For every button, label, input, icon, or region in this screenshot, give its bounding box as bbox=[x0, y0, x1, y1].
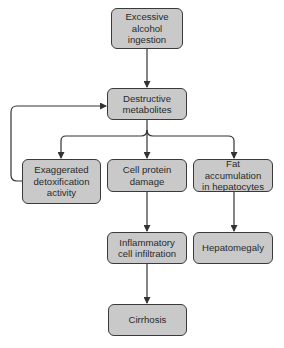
edge-metabolites-fat bbox=[147, 130, 234, 158]
node-label: Fat accumulation in hepatocytes bbox=[197, 158, 269, 193]
node-hepatomegaly: Hepatomegaly bbox=[193, 232, 273, 264]
node-cirrhosis: Cirrhosis bbox=[108, 304, 187, 336]
node-destructive-metabolites: Destructive metabolites bbox=[107, 88, 187, 120]
node-label: Cell protein damage bbox=[123, 164, 172, 187]
edge-metabolites-detox bbox=[61, 130, 147, 158]
node-excessive-alcohol-ingestion: Excessive alcohol ingestion bbox=[111, 8, 183, 49]
node-label: Destructive metabolites bbox=[122, 93, 171, 116]
node-exaggerated-detoxification-activity: Exaggerated detoxification activity bbox=[22, 159, 101, 204]
node-cell-protein-damage: Cell protein damage bbox=[107, 159, 187, 192]
node-label: Cirrhosis bbox=[129, 314, 167, 326]
node-label: Exaggerated detoxification activity bbox=[34, 164, 90, 199]
node-label: Excessive alcohol ingestion bbox=[125, 11, 168, 46]
node-fat-accumulation: Fat accumulation in hepatocytes bbox=[193, 159, 273, 192]
node-label: Hepatomegaly bbox=[202, 242, 264, 254]
node-inflammatory-cell-infiltration: Inflammatory cell infiltration bbox=[107, 232, 187, 264]
node-label: Inflammatory cell infiltration bbox=[118, 237, 176, 260]
